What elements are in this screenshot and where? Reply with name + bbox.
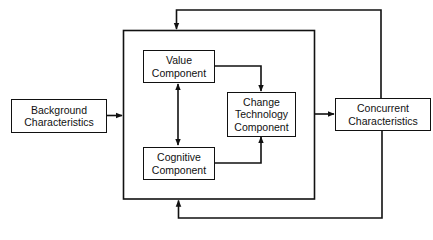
- node-label: Characteristics: [348, 115, 417, 128]
- node-value-component: Value Component: [143, 50, 215, 83]
- node-label: Value: [166, 54, 192, 67]
- node-label: Component: [152, 67, 206, 80]
- node-background-characteristics: Background Characteristics: [11, 99, 107, 133]
- node-label: Change: [243, 96, 280, 109]
- node-label: Technology: [235, 108, 288, 121]
- node-label: Component: [234, 121, 288, 134]
- node-label: Cognitive: [157, 151, 201, 164]
- edge-cognitive-to-change: [214, 137, 261, 163]
- node-label: Characteristics: [24, 116, 93, 129]
- node-label: Concurrent: [357, 102, 409, 115]
- node-concurrent-characteristics: Concurrent Characteristics: [335, 98, 431, 131]
- node-label: Component: [152, 164, 206, 177]
- node-label: Background: [31, 104, 87, 117]
- node-change-technology-component: Change Technology Component: [227, 92, 296, 137]
- edge-value-to-change: [214, 66, 261, 91]
- node-cognitive-component: Cognitive Component: [143, 147, 215, 180]
